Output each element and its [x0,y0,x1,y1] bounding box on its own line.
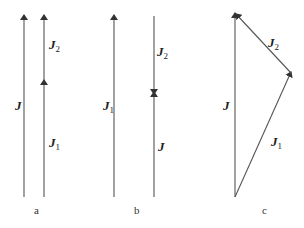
label-J2: J2 [268,36,279,52]
caption-b: b [134,205,140,216]
caption-c: c [262,205,267,216]
vector-J2 [236,14,291,73]
panel-a [24,15,44,197]
vector-J1 [235,72,291,197]
label-J1: J1 [49,136,60,152]
label-J: J [223,99,230,112]
label-J: J [158,140,165,153]
caption-a: a [34,205,39,216]
vector-diagram [0,0,304,228]
label-J: J [15,99,22,112]
panel-b [114,15,154,197]
label-J2: J2 [49,38,60,54]
label-J2: J2 [157,45,168,61]
label-J1: J1 [271,135,282,151]
label-J1: J1 [103,99,114,115]
panel-c [235,13,291,197]
